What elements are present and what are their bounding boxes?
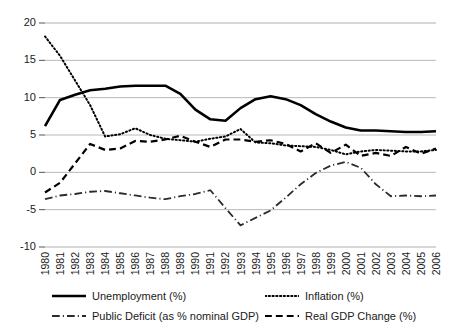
economic-indicators-chart: 20151050-5-10 19801981198219831984198519… [0,0,457,329]
x-tick-label-1999: 1999 [326,252,336,275]
series-line-public_deficit [45,162,436,225]
x-tick-label-2001: 2001 [356,252,366,275]
legend-swatch-dashdot [52,311,86,321]
x-tick-label-2004: 2004 [401,252,411,275]
x-tick-label-1988: 1988 [160,252,170,275]
x-tick-label-2006: 2006 [431,252,441,275]
x-tick-label-1991: 1991 [205,252,215,275]
x-tick-label-1987: 1987 [145,252,155,275]
series-line-real_gdp_change [45,136,436,193]
x-tick-label-1983: 1983 [85,252,95,275]
legend-label: Unemployment (%) [92,290,186,302]
legend-label: Public Deficit (as % nominal GDP) [92,310,259,322]
x-tick-label-1981: 1981 [55,252,65,275]
x-tick-label-1993: 1993 [236,252,246,275]
x-tick-label-2005: 2005 [416,252,426,275]
legend-item-unemployment[interactable]: Unemployment (%) [52,289,186,302]
x-tick-label-1985: 1985 [115,252,125,275]
series-line-unemployment [45,86,436,132]
x-tick-label-1982: 1982 [70,252,80,275]
x-tick-label-1997: 1997 [296,252,306,275]
y-tick-label-15: 15 [10,54,36,65]
x-tick-label-1994: 1994 [251,252,261,275]
x-tick-label-1986: 1986 [130,252,140,275]
y-tick-label-0: 0 [10,166,36,177]
chart-gridlines [39,23,436,247]
series-line-inflation [45,36,436,154]
x-tick-label-1995: 1995 [266,252,276,275]
x-tick-label-1996: 1996 [281,252,291,275]
x-tick-label-1990: 1990 [190,252,200,275]
y-tick-label-20: 20 [10,17,36,28]
chart-legend: Unemployment (%)Inflation (%)Public Defi… [0,287,457,329]
y-tick-label-5: 5 [10,129,36,140]
chart-series-lines [45,36,436,225]
legend-label: Inflation (%) [305,290,364,302]
x-tick-label-2003: 2003 [386,252,396,275]
legend-swatch-solid [52,291,86,301]
x-tick-label-1998: 1998 [311,252,321,275]
y-tick-label-10: 10 [10,92,36,103]
legend-label: Real GDP Change (%) [305,310,416,322]
y-tick-label--5: -5 [10,204,36,215]
x-tick-label-1984: 1984 [100,252,110,275]
chart-plot-area [0,0,457,329]
x-tick-label-1992: 1992 [220,252,230,275]
legend-swatch-dotted [265,291,299,301]
legend-swatch-dashed [265,311,299,321]
y-tick-label--10: -10 [10,241,36,252]
legend-item-public-deficit[interactable]: Public Deficit (as % nominal GDP) [52,309,259,322]
x-tick-label-2000: 2000 [341,252,351,275]
legend-item-inflation[interactable]: Inflation (%) [265,289,364,302]
x-tick-label-1980: 1980 [40,252,50,275]
legend-item-real-gdp-change[interactable]: Real GDP Change (%) [265,309,416,322]
x-tick-label-2002: 2002 [371,252,381,275]
x-tick-label-1989: 1989 [175,252,185,275]
